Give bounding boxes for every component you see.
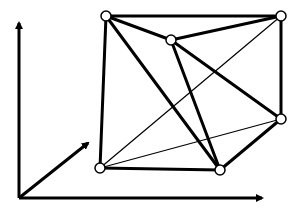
- edges: [100, 16, 281, 170]
- node-e: [215, 165, 225, 175]
- node-f: [95, 163, 105, 173]
- depth-axis: [19, 143, 88, 198]
- edge-b-c: [171, 16, 281, 40]
- node-d: [276, 114, 286, 124]
- edge-a-e: [106, 16, 220, 170]
- edge-f-b: [100, 16, 281, 168]
- node-c: [166, 35, 176, 45]
- edge-c-e: [171, 40, 220, 170]
- axes: [19, 23, 262, 198]
- node-b: [276, 11, 286, 21]
- diagram-canvas: [0, 0, 302, 211]
- edge-a-f: [100, 16, 106, 168]
- edge-f-e: [100, 168, 220, 170]
- edge-c-d: [171, 40, 281, 119]
- node-a: [101, 11, 111, 21]
